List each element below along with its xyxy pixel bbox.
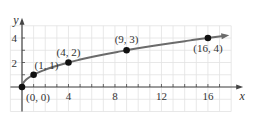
x-tick-label: 16 xyxy=(202,90,214,102)
sqrt-function-plot: 48121624xy(0, 0)(1, 1)(4, 2)(9, 3)(16, 4… xyxy=(0,0,256,117)
x-tick-label: 12 xyxy=(156,90,167,102)
y-tick-label: 4 xyxy=(12,32,18,44)
x-axis-label: x xyxy=(238,89,245,103)
data-point xyxy=(19,84,26,91)
data-point xyxy=(65,59,72,66)
point-label: (4, 2) xyxy=(57,46,81,59)
labels: 48121624xy(0, 0)(1, 1)(4, 2)(9, 3)(16, 4… xyxy=(12,13,246,104)
point-label: (0, 0) xyxy=(26,91,50,104)
data-point xyxy=(205,35,212,42)
y-tick-label: 2 xyxy=(12,57,18,69)
point-label: (16, 4) xyxy=(193,42,223,55)
data-point xyxy=(30,71,37,78)
point-label: (1, 1) xyxy=(35,59,59,72)
data-point xyxy=(123,47,130,54)
y-axis-arrow-icon xyxy=(20,18,25,25)
x-tick-label: 4 xyxy=(66,90,72,102)
point-label: (9, 3) xyxy=(115,33,139,46)
y-axis-label: y xyxy=(12,13,19,27)
x-tick-label: 8 xyxy=(112,90,118,102)
chart-root: 48121624xy(0, 0)(1, 1)(4, 2)(9, 3)(16, 4… xyxy=(0,0,256,117)
